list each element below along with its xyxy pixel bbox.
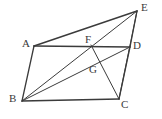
segment-AD — [34, 46, 130, 47]
vertex-label-A: A — [22, 38, 30, 49]
segment-layer — [22, 11, 137, 101]
segment-BC — [22, 99, 119, 101]
vertex-label-C: C — [121, 99, 128, 110]
geometry-figure: A B C D E F G — [0, 0, 162, 119]
vertex-label-E: E — [141, 2, 148, 13]
segment-BD — [22, 47, 130, 101]
segment-BE — [22, 11, 137, 101]
vertex-label-G: G — [89, 64, 97, 75]
vertex-label-F: F — [85, 34, 91, 45]
vertex-label-B: B — [9, 93, 16, 104]
vertex-label-D: D — [133, 40, 141, 51]
segment-EC — [119, 11, 137, 99]
geometry-canvas — [0, 0, 162, 119]
